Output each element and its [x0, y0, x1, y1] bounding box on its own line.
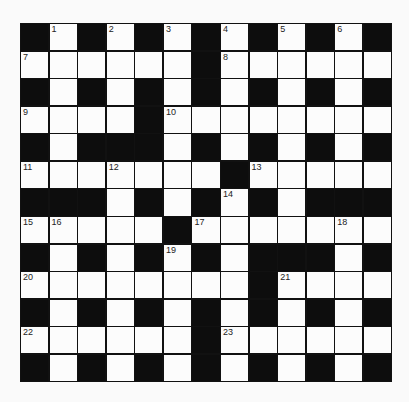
answer-cell[interactable] [50, 134, 77, 160]
answer-cell[interactable] [307, 327, 334, 353]
answer-cell[interactable] [278, 134, 305, 160]
answer-cell[interactable] [192, 272, 219, 298]
answer-cell[interactable]: 22 [21, 327, 48, 353]
answer-cell[interactable] [107, 355, 134, 381]
answer-cell[interactable] [50, 52, 77, 78]
answer-cell[interactable] [278, 162, 305, 188]
answer-cell[interactable] [278, 52, 305, 78]
answer-cell[interactable] [164, 79, 191, 105]
answer-cell[interactable]: 17 [192, 217, 219, 243]
answer-cell[interactable] [364, 52, 391, 78]
answer-cell[interactable] [250, 107, 277, 133]
answer-cell[interactable] [107, 300, 134, 326]
answer-cell[interactable]: 1 [50, 24, 77, 50]
answer-cell[interactable] [278, 79, 305, 105]
answer-cell[interactable] [107, 272, 134, 298]
answer-cell[interactable] [78, 52, 105, 78]
answer-cell[interactable]: 7 [21, 52, 48, 78]
answer-cell[interactable] [278, 355, 305, 381]
answer-cell[interactable] [50, 300, 77, 326]
answer-cell[interactable] [364, 217, 391, 243]
answer-cell[interactable] [307, 272, 334, 298]
answer-cell[interactable] [164, 300, 191, 326]
answer-cell[interactable] [307, 107, 334, 133]
answer-cell[interactable]: 3 [164, 24, 191, 50]
answer-cell[interactable] [278, 300, 305, 326]
answer-cell[interactable] [221, 245, 248, 271]
answer-cell[interactable] [164, 134, 191, 160]
answer-cell[interactable] [107, 245, 134, 271]
answer-cell[interactable] [307, 217, 334, 243]
answer-cell[interactable] [278, 107, 305, 133]
answer-cell[interactable]: 14 [221, 189, 248, 215]
answer-cell[interactable] [135, 162, 162, 188]
answer-cell[interactable] [335, 52, 362, 78]
answer-cell[interactable]: 19 [164, 245, 191, 271]
answer-cell[interactable] [50, 245, 77, 271]
answer-cell[interactable] [164, 355, 191, 381]
answer-cell[interactable]: 11 [21, 162, 48, 188]
answer-cell[interactable] [364, 327, 391, 353]
answer-cell[interactable]: 4 [221, 24, 248, 50]
answer-cell[interactable] [335, 355, 362, 381]
answer-cell[interactable]: 21 [278, 272, 305, 298]
answer-cell[interactable] [335, 79, 362, 105]
answer-cell[interactable] [78, 327, 105, 353]
answer-cell[interactable] [78, 162, 105, 188]
answer-cell[interactable] [164, 162, 191, 188]
answer-cell[interactable] [364, 162, 391, 188]
answer-cell[interactable] [335, 107, 362, 133]
answer-cell[interactable] [221, 272, 248, 298]
answer-cell[interactable] [50, 79, 77, 105]
answer-cell[interactable] [107, 217, 134, 243]
answer-cell[interactable] [78, 217, 105, 243]
answer-cell[interactable] [221, 107, 248, 133]
answer-cell[interactable] [50, 355, 77, 381]
answer-cell[interactable]: 10 [164, 107, 191, 133]
answer-cell[interactable] [335, 272, 362, 298]
answer-cell[interactable] [164, 327, 191, 353]
answer-cell[interactable] [221, 134, 248, 160]
answer-cell[interactable]: 12 [107, 162, 134, 188]
answer-cell[interactable] [335, 327, 362, 353]
answer-cell[interactable] [221, 355, 248, 381]
answer-cell[interactable] [135, 272, 162, 298]
answer-cell[interactable] [164, 52, 191, 78]
answer-cell[interactable] [107, 79, 134, 105]
answer-cell[interactable]: 9 [21, 107, 48, 133]
answer-cell[interactable] [307, 52, 334, 78]
answer-cell[interactable] [78, 272, 105, 298]
answer-cell[interactable]: 16 [50, 217, 77, 243]
answer-cell[interactable]: 20 [21, 272, 48, 298]
answer-cell[interactable] [364, 107, 391, 133]
answer-cell[interactable]: 15 [21, 217, 48, 243]
answer-cell[interactable] [135, 52, 162, 78]
answer-cell[interactable] [107, 189, 134, 215]
answer-cell[interactable] [221, 300, 248, 326]
answer-cell[interactable]: 2 [107, 24, 134, 50]
answer-cell[interactable]: 23 [221, 327, 248, 353]
answer-cell[interactable] [278, 189, 305, 215]
answer-cell[interactable]: 8 [221, 52, 248, 78]
answer-cell[interactable] [192, 162, 219, 188]
answer-cell[interactable] [335, 134, 362, 160]
answer-cell[interactable] [278, 217, 305, 243]
answer-cell[interactable] [221, 79, 248, 105]
answer-cell[interactable] [164, 189, 191, 215]
answer-cell[interactable] [78, 107, 105, 133]
answer-cell[interactable] [221, 217, 248, 243]
answer-cell[interactable] [335, 300, 362, 326]
answer-cell[interactable] [50, 327, 77, 353]
answer-cell[interactable] [135, 327, 162, 353]
answer-cell[interactable]: 5 [278, 24, 305, 50]
answer-cell[interactable] [107, 327, 134, 353]
answer-cell[interactable] [50, 162, 77, 188]
answer-cell[interactable] [250, 217, 277, 243]
answer-cell[interactable] [307, 162, 334, 188]
answer-cell[interactable] [278, 327, 305, 353]
answer-cell[interactable] [50, 272, 77, 298]
answer-cell[interactable] [50, 107, 77, 133]
answer-cell[interactable]: 13 [250, 162, 277, 188]
answer-cell[interactable] [135, 217, 162, 243]
answer-cell[interactable]: 18 [335, 217, 362, 243]
